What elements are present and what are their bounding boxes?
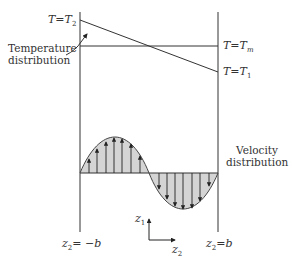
t2-sym: T: [65, 13, 72, 26]
label-t1: T=T1: [223, 66, 251, 82]
left-wall-label: z2= −b: [62, 238, 101, 254]
z2-sub: 2: [178, 250, 182, 258]
velocity-label-line2: distribution: [226, 156, 288, 168]
left-wall-rest: = −b: [72, 237, 101, 250]
t2-sub: 2: [72, 20, 76, 28]
temperature-label-line2: distribution: [8, 54, 70, 66]
temperature-distribution-label: Temperature distribution: [8, 42, 70, 66]
tm-sub: m: [247, 46, 254, 54]
t1-sym: T: [240, 65, 247, 78]
z1-axis-label: z1: [135, 213, 145, 229]
velocity-distribution-label: Velocity distribution: [226, 144, 288, 168]
z2-axis-label: z2: [172, 244, 182, 260]
t2-eq: =: [55, 13, 64, 26]
tm-sym: T: [240, 39, 247, 52]
right-wall-label: z2=b: [206, 238, 233, 254]
temperature-label-line1: Temperature: [8, 42, 70, 54]
tm-eq: =: [230, 39, 239, 52]
z1-sub: 1: [141, 219, 145, 227]
right-wall-rest: =b: [216, 237, 232, 250]
label-tm: T=Tm: [223, 40, 254, 56]
label-t2: T=T2: [48, 14, 76, 30]
t1-eq: =: [230, 65, 239, 78]
t1-sub: 1: [247, 72, 251, 80]
velocity-label-line1: Velocity: [226, 144, 288, 156]
